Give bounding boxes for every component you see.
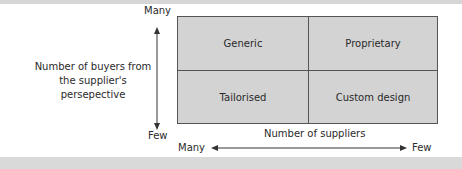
x-axis-title: Number of suppliers: [264, 128, 365, 139]
quadrant-tailorised: Tailorised: [178, 71, 309, 123]
x-axis-right-label: Few: [412, 142, 432, 153]
bottom-border-bar: [0, 157, 462, 169]
quadrant-grid: Generic Proprietary Tailorised Custom de…: [177, 16, 438, 124]
quadrant-custom-design: Custom design: [309, 71, 437, 123]
arrow-right-icon: [400, 145, 407, 151]
quadrant-generic: Generic: [178, 17, 309, 71]
quadrant-proprietary: Proprietary: [309, 17, 437, 71]
arrow-down-icon: [154, 123, 160, 130]
arrow-up-icon: [154, 27, 160, 34]
arrow-left-icon: [211, 145, 218, 151]
x-axis-left-label: Many: [178, 142, 205, 153]
